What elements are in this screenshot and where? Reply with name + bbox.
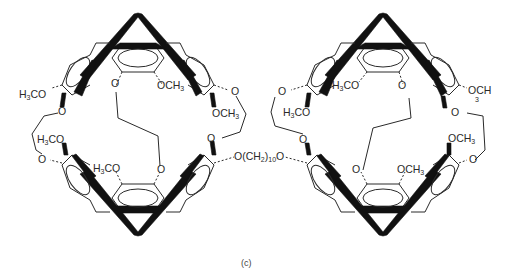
ether-oxygen-label: O [157,164,165,175]
ether-oxygen-label: O [207,133,215,144]
left-cryptophane-cage [32,13,246,236]
ether-oxygen-label: O [58,106,66,117]
methoxy-label: OCH3 [468,85,491,96]
ether-oxygen-label: O [451,107,459,118]
right-cryptophane-cage [271,13,485,236]
bottom-triangle-bridge [325,170,441,236]
center-ethylene-bridge [363,98,411,170]
ether-oxygen-label: O [278,86,286,97]
methoxy-label: H3CO [19,89,46,101]
ether-oxygen-label: O [231,86,239,97]
left-upper-benzene-ring [62,43,96,96]
figure-caption: (c) [241,258,252,268]
methoxy-label: OCH3 [212,108,239,120]
decamethylene-linker-label: O(CH2)10O [234,151,284,163]
methoxy-label: OCH3 [397,164,424,176]
top-center-benzene-ring [355,43,411,72]
ether-oxygen-label: O [469,154,477,165]
right-upper-benzene-ring [425,43,459,96]
ether-oxygen-label: O [398,80,406,91]
ether-oxygen-label: O [38,154,46,165]
cryptophane-dimer-diagram [0,0,512,269]
bottom-center-benzene-ring [110,184,166,213]
methoxy-label: H3CO [332,80,359,92]
methoxy-label: H3CO [93,163,120,175]
methoxy-label: H3CO [283,107,310,119]
top-center-benzene-ring [110,43,166,72]
methoxy-label: H3CO [37,134,64,146]
bottom-center-benzene-ring [355,184,411,213]
ether-oxygen-label: O [111,78,119,89]
methoxy-label: OCH3 [157,80,184,92]
center-ethylene-bridge [116,92,160,166]
ether-oxygen-label: O [299,134,307,145]
methoxy-label: OCH3 [448,133,475,145]
bottom-triangle-bridge [80,170,196,236]
ether-oxygen-label: O [352,164,360,175]
right-upper-benzene-ring [180,43,214,96]
